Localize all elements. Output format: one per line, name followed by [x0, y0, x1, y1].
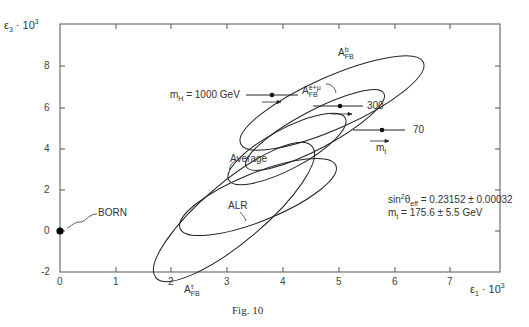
label-mt-70: 70 — [413, 124, 424, 135]
x-tick-4: 4 — [280, 276, 286, 287]
y-tick-8: 8 — [44, 60, 50, 71]
leader-born — [67, 214, 97, 228]
label-afb-tau: AτFB — [184, 283, 200, 297]
figure-caption: Fig. 10 — [232, 304, 263, 316]
x-tick-1: 1 — [113, 276, 119, 287]
x-tick-5: 5 — [336, 276, 342, 287]
y-tick-4: 4 — [44, 143, 50, 154]
y-axis-label: ε3 · 103 — [4, 18, 39, 33]
x-tick-0: 0 — [57, 276, 63, 287]
label-afb-emu: Ae+μFB — [302, 84, 321, 98]
ellipse-afb-tau — [137, 123, 332, 300]
x-axis-label: ε1 · 103 — [470, 282, 505, 297]
x-tick-2: 2 — [168, 276, 174, 287]
y-tick-6: 6 — [44, 102, 50, 113]
x-tick-7: 7 — [447, 276, 453, 287]
label-born: BORN — [98, 207, 127, 218]
y-tick-2: 2 — [44, 184, 50, 195]
leader-afb-emu — [326, 84, 336, 93]
label-mh-1000: mH = 1000 GeV — [170, 89, 240, 102]
y-tick-neg2: -2 — [41, 266, 50, 277]
point-mt-300 — [338, 104, 343, 109]
label-afb-b: AbFB — [338, 46, 354, 60]
point-born — [56, 227, 63, 234]
label-sin2theta: sin2θeff = 0.23152 ± 0.00032 — [388, 193, 513, 207]
point-mt-70 — [380, 128, 385, 133]
leader-alr — [240, 212, 246, 221]
label-alr: ALR — [228, 200, 247, 211]
label-mt-arrow: mt — [376, 142, 386, 155]
ellipse-afb-b — [230, 39, 434, 168]
label-mt-300: 300 — [367, 100, 384, 111]
y-tick-0: 0 — [44, 225, 50, 236]
x-tick-6: 6 — [392, 276, 398, 287]
x-tick-3: 3 — [224, 276, 230, 287]
label-mt-value: mt = 175.6 ± 5.5 GeV — [388, 207, 482, 220]
point-mh-1000 — [270, 93, 275, 98]
label-average: Average — [230, 153, 267, 164]
ellipse-average — [219, 100, 354, 197]
x-ticks — [116, 24, 450, 272]
